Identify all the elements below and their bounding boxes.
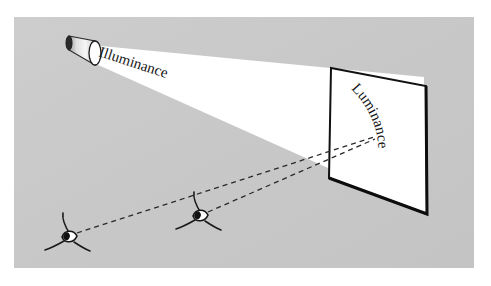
figure-root: Illuminance Luminance bbox=[0, 0, 491, 286]
spotlight-back-cap bbox=[66, 36, 72, 50]
photometry-diagram-svg: Illuminance Luminance bbox=[0, 0, 491, 286]
